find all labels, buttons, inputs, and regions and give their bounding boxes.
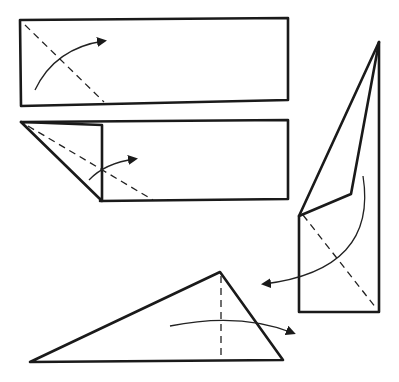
fold-arrow-icon (170, 320, 293, 333)
fold-arrow-icon (35, 41, 104, 90)
fold-line (303, 215, 376, 308)
origami-diagram (0, 0, 399, 382)
step-1-rectangle (20, 18, 288, 106)
step-2-folded-corner (21, 120, 288, 201)
step-4-triangle (30, 272, 293, 362)
fold-arrow-icon (89, 159, 135, 180)
step-3-tall-point (264, 42, 379, 312)
fold-line (25, 25, 104, 102)
